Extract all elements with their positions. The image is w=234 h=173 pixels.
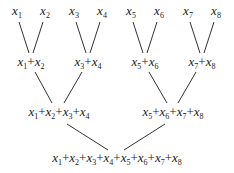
leaf-node: x7 [183,4,193,23]
leaf-node: x1 [12,4,22,23]
leaf-node: x8 [211,4,221,23]
tree-edge [147,22,157,53]
leaf-node: x3 [69,4,79,23]
sum-node-level-2: x7+x8 [189,55,216,74]
leaf-node: x2 [40,4,50,23]
sum-node-level-2: x3+x4 [75,55,102,74]
tree-edge [76,22,86,53]
sum-node-level-2: x1+x2 [18,55,45,74]
leaf-node: x5 [126,4,136,23]
tree-edge [33,22,43,53]
sum-node-level-3: x1+x2+x3+x4 [28,105,89,124]
tree-edge [204,22,214,53]
leaf-node: x4 [97,4,107,23]
tree-edge [19,22,29,53]
tree-edge [90,22,100,53]
sum-node-level-3: x5+x6+x7+x8 [142,105,203,124]
tree-edge [67,124,108,150]
root-sum-node: x1+x2+x3+x4+x5+x6+x7+x8 [52,151,182,170]
sum-node-level-2: x5+x6 [132,55,159,74]
tree-edge [149,72,167,103]
tree-edge [124,124,165,150]
tree-edge [35,72,52,103]
tree-edges [0,0,234,173]
tree-edge [190,22,200,53]
leaf-node: x6 [154,4,164,23]
tree-edge [64,72,82,103]
tree-edge [133,22,143,53]
tree-edge [178,72,196,103]
